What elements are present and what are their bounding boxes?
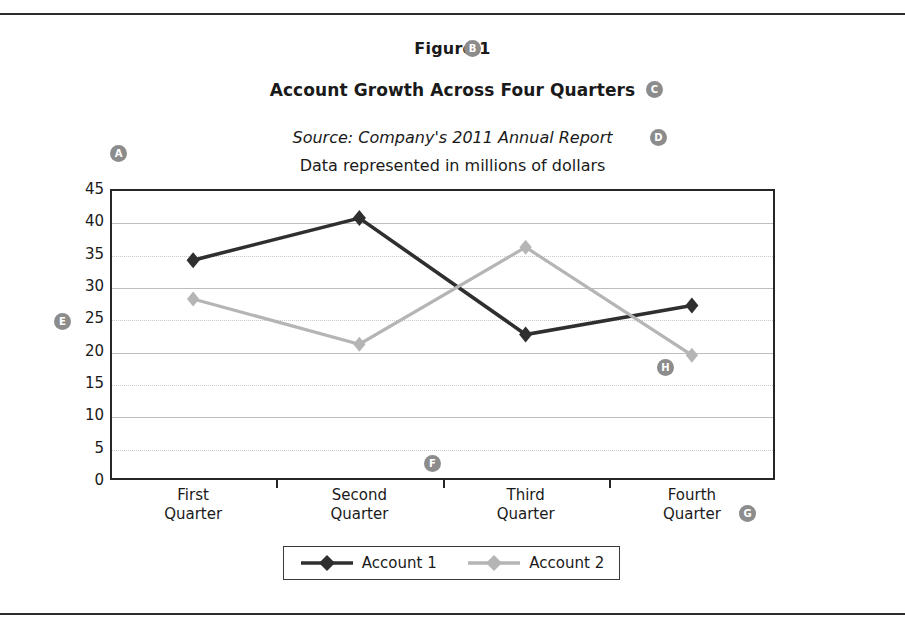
legend-label-1: Account 1 — [362, 554, 437, 572]
legend-swatch-2 — [466, 555, 522, 571]
callout-e-y-axis: E — [54, 313, 71, 330]
chart-subnote: Data represented in millions of dollars — [0, 155, 905, 175]
callout-h-data-point: H — [657, 359, 674, 376]
data-point-s1-3 — [519, 327, 532, 343]
chart-title: Account Growth Across Four Quarters — [0, 79, 905, 100]
callout-d-source-line: D — [650, 129, 667, 146]
x-axis-tick-1 — [276, 480, 278, 488]
legend-swatch-1 — [299, 555, 355, 571]
data-point-s2-4 — [686, 348, 698, 363]
y-tick-label-15: 15 — [64, 374, 104, 392]
data-point-s1-1 — [187, 252, 200, 268]
callout-f-x-axis: F — [424, 455, 441, 472]
y-tick-label-20: 20 — [64, 342, 104, 360]
chart-source: Source: Company's 2011 Annual Report — [0, 127, 905, 147]
chart-subnote-text: Data represented in millions of dollars — [300, 156, 606, 175]
chart-legend: Account 1Account 2 — [283, 546, 620, 580]
data-point-s2-1 — [187, 291, 199, 306]
legend-label-2: Account 2 — [529, 554, 604, 572]
x-axis-tick-3 — [609, 480, 611, 488]
series-line-1 — [193, 218, 692, 334]
x-axis-label-1: FirstQuarter — [113, 486, 273, 524]
y-tick-label-45: 45 — [64, 180, 104, 198]
data-point-s2-3 — [519, 240, 531, 255]
figure-label: Figure 1 — [0, 38, 905, 58]
callout-b-figure-label: B — [464, 40, 481, 57]
series-line-2 — [193, 247, 692, 355]
callout-c-chart-title: C — [646, 81, 663, 98]
x-axis-label-2: SecondQuarter — [279, 486, 439, 524]
y-tick-label-30: 30 — [64, 277, 104, 295]
legend-item-1[interactable]: Account 1 — [299, 554, 437, 572]
data-point-s2-2 — [353, 337, 365, 352]
y-axis-tick-labels: 051015202530354045 — [60, 189, 104, 480]
y-tick-label-35: 35 — [64, 245, 104, 263]
legend-item-2[interactable]: Account 2 — [466, 554, 604, 572]
callout-g-category-label: G — [739, 505, 756, 522]
y-tick-label-40: 40 — [64, 212, 104, 230]
x-axis-tick-2 — [443, 480, 445, 488]
y-tick-label-0: 0 — [64, 471, 104, 489]
data-point-s1-2 — [353, 210, 366, 226]
bottom-divider-rule — [0, 613, 905, 615]
chart-series-layer — [110, 189, 775, 480]
y-tick-label-10: 10 — [64, 406, 104, 424]
x-axis-label-3: ThirdQuarter — [446, 486, 606, 524]
callout-a-plot-area: A — [110, 145, 127, 162]
y-tick-label-5: 5 — [64, 439, 104, 457]
chart-source-text: Source: Company's 2011 Annual Report — [293, 128, 613, 147]
top-divider-rule — [0, 13, 905, 15]
data-point-s1-4 — [685, 297, 698, 313]
chart-title-text: Account Growth Across Four Quarters — [270, 80, 636, 100]
